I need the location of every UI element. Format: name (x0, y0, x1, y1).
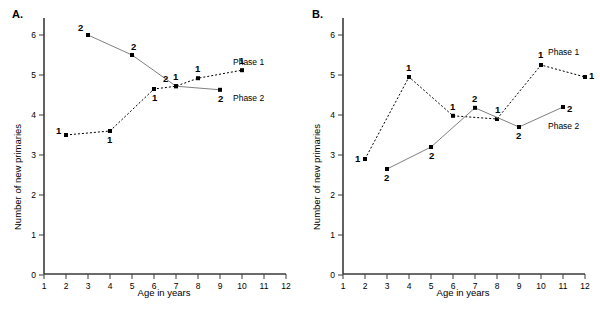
x-tick-label: 7 (467, 281, 483, 291)
chart-svg-a (0, 0, 300, 315)
data-point-label: 2 (384, 173, 389, 183)
x-tick-label: 4 (102, 281, 118, 291)
data-point-label: 1 (406, 63, 411, 73)
data-point-label: 2 (429, 151, 434, 161)
data-point-marker (218, 88, 222, 92)
data-point-label: 1 (538, 50, 543, 60)
data-point-marker (429, 145, 433, 149)
data-point-label: 2 (218, 94, 223, 104)
x-tick-label: 8 (190, 281, 206, 291)
y-tick-label: 2 (321, 190, 335, 200)
data-point-label: 1 (355, 154, 360, 164)
data-point-marker (174, 84, 178, 88)
x-tick-label: 11 (256, 281, 272, 291)
y-tick-label: 3 (321, 150, 335, 160)
y-tick-label: 6 (22, 30, 36, 40)
data-point-marker (583, 75, 587, 79)
data-point-label: 1 (56, 126, 61, 136)
data-point-marker (407, 75, 411, 79)
data-point-marker (473, 106, 477, 110)
x-tick-label: 11 (555, 281, 571, 291)
y-tick-label: 0 (321, 270, 335, 280)
y-tick-label: 1 (321, 230, 335, 240)
y-axis-title-a: Number of new primaries (12, 124, 23, 230)
chart-panel-b: B. Age in years Number of new primaries … (300, 0, 600, 315)
data-point-marker (196, 76, 200, 80)
data-point-marker (517, 125, 521, 129)
y-tick-label: 5 (22, 70, 36, 80)
data-point-label: 1 (152, 93, 157, 103)
data-point-label: 2 (472, 94, 477, 104)
series-label-phase2-a: Phase 2 (233, 94, 264, 103)
data-point-marker (152, 87, 156, 91)
y-tick-label: 3 (22, 150, 36, 160)
data-point-label: 2 (567, 104, 572, 114)
x-tick-label: 6 (146, 281, 162, 291)
data-point-label: 2 (131, 42, 136, 52)
x-tick-label: 1 (335, 281, 351, 291)
data-point-marker (363, 157, 367, 161)
data-point-marker (108, 129, 112, 133)
x-axis-title-b: Age in years (403, 287, 523, 298)
data-point-label: 1 (495, 105, 500, 115)
x-tick-label: 1 (36, 281, 52, 291)
x-tick-label: 3 (379, 281, 395, 291)
x-tick-label: 2 (357, 281, 373, 291)
data-point-marker (130, 53, 134, 57)
data-point-marker (561, 105, 565, 109)
x-tick-label: 9 (511, 281, 527, 291)
data-point-marker (86, 33, 90, 37)
data-point-label: 2 (163, 74, 168, 84)
y-tick-label: 2 (22, 190, 36, 200)
data-point-marker (539, 63, 543, 67)
data-point-label: 1 (450, 102, 455, 112)
x-tick-label: 12 (577, 281, 593, 291)
x-tick-label: 2 (58, 281, 74, 291)
x-tick-label: 9 (212, 281, 228, 291)
x-tick-label: 12 (278, 281, 294, 291)
x-tick-label: 10 (533, 281, 549, 291)
data-point-marker (240, 68, 244, 72)
data-point-label: 1 (173, 72, 178, 82)
series-line-2 (88, 35, 220, 90)
data-point-label: 1 (107, 135, 112, 145)
y-tick-label: 4 (321, 110, 335, 120)
data-point-marker (451, 114, 455, 118)
y-tick-label: 1 (22, 230, 36, 240)
chart-panel-a: A. Age in years Number of new primaries … (0, 0, 300, 315)
x-tick-label: 8 (489, 281, 505, 291)
y-tick-label: 0 (22, 270, 36, 280)
y-tick-label: 6 (321, 30, 335, 40)
series-label-phase2-b: Phase 2 (548, 122, 579, 131)
x-tick-label: 7 (168, 281, 184, 291)
x-tick-label: 6 (445, 281, 461, 291)
y-tick-label: 5 (321, 70, 335, 80)
x-tick-label: 5 (423, 281, 439, 291)
x-axis-title-a: Age in years (104, 287, 224, 298)
figure-container: A. Age in years Number of new primaries … (0, 0, 600, 315)
x-tick-label: 3 (80, 281, 96, 291)
series-label-phase1-b: Phase 1 (548, 48, 579, 57)
y-axis-title-b: Number of new primaries (311, 124, 322, 230)
y-tick-label: 4 (22, 110, 36, 120)
series-line-2 (387, 107, 563, 169)
x-tick-label: 5 (124, 281, 140, 291)
data-point-label: 2 (516, 131, 521, 141)
x-tick-label: 4 (401, 281, 417, 291)
data-point-marker (385, 167, 389, 171)
data-point-label: 2 (78, 23, 83, 33)
series-label-phase1-a: Phase 1 (233, 58, 264, 67)
data-point-label: 1 (195, 64, 200, 74)
data-point-label: 1 (589, 71, 594, 81)
x-tick-label: 10 (234, 281, 250, 291)
data-point-marker (64, 133, 68, 137)
